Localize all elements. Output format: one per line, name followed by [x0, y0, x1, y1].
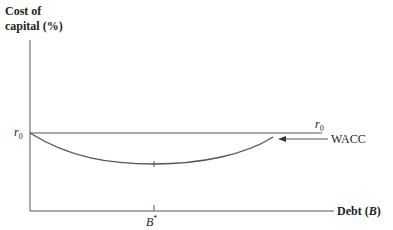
wacc-curve [30, 133, 273, 164]
r0-right-label: r0 [315, 117, 324, 133]
bstar-label: B* [146, 214, 157, 230]
r0-left-label: r0 [14, 125, 23, 141]
diagram-canvas [0, 0, 393, 230]
x-axis-label: Debt (B) [337, 204, 381, 219]
wacc-label: WACC [331, 132, 366, 147]
wacc-arrowhead-icon [278, 136, 286, 142]
